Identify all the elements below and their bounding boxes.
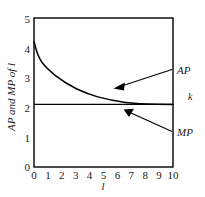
mp-series-label: MP xyxy=(177,126,193,138)
x-tick-10: 10 xyxy=(166,170,180,181)
y-tick-5: 5 xyxy=(16,14,30,25)
y-axis-title: AP and MP of l xyxy=(5,63,17,131)
x-tick-8: 8 xyxy=(138,170,152,181)
x-tick-1: 1 xyxy=(41,170,55,181)
chart-figure: 5 4 3 2 1 0 0 1 2 3 4 5 6 7 8 9 10 l AP … xyxy=(0,0,205,197)
x-tick-3: 3 xyxy=(69,170,83,181)
y-tick-1: 1 xyxy=(16,133,30,144)
x-tick-6: 6 xyxy=(110,170,124,181)
y-tick-3: 3 xyxy=(16,73,30,84)
x-axis-title: l xyxy=(96,180,110,192)
k-annotation-label: k xyxy=(188,91,192,102)
plot-frame xyxy=(34,18,173,167)
y-tick-2: 2 xyxy=(16,103,30,114)
ap-series-label: AP xyxy=(177,64,190,76)
x-tick-7: 7 xyxy=(124,170,138,181)
y-tick-4: 4 xyxy=(16,44,30,55)
x-tick-2: 2 xyxy=(55,170,69,181)
x-tick-4: 4 xyxy=(83,170,97,181)
x-tick-9: 9 xyxy=(152,170,166,181)
chart-canvas xyxy=(0,0,205,197)
x-tick-0: 0 xyxy=(27,170,41,181)
